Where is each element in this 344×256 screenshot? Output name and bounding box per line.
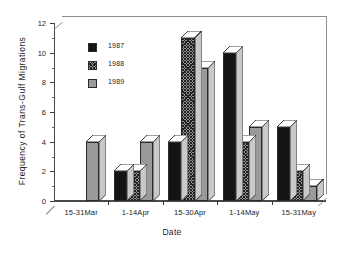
y-tick-major [50, 82, 54, 83]
bar-side [249, 135, 256, 194]
bar-face [277, 127, 290, 201]
y-tick-label: 12 [24, 19, 46, 28]
bar-side [236, 46, 243, 194]
bar-side [208, 61, 215, 195]
bar-side [153, 135, 160, 194]
x-tick-label: 15-31May [272, 208, 326, 217]
y-tick-minor [52, 157, 55, 158]
x-tick [108, 201, 109, 205]
bar-1987-15-30Apr [168, 142, 181, 201]
bar-top [114, 164, 127, 171]
y-tick-label: 8 [24, 78, 46, 87]
y-tick-label: 0 [24, 197, 46, 206]
bar-1989-15-31Mar [86, 142, 99, 201]
bar-top [277, 120, 290, 127]
bar-side [195, 31, 202, 194]
legend-swatch-1989 [88, 79, 97, 88]
x-tick [217, 201, 218, 205]
bar-top [86, 135, 99, 142]
y-tick-label: 4 [24, 138, 46, 147]
bar-1987-1-14Apr [114, 171, 127, 201]
x-tick-label: 1-14Apr [108, 208, 162, 217]
y-tick-major [50, 112, 54, 113]
y-tick-minor [52, 97, 55, 98]
y-tick-major [50, 142, 54, 143]
bar-top [168, 135, 181, 142]
x-tick [272, 201, 273, 205]
floor-front-edge [54, 201, 326, 202]
bar-face [86, 142, 99, 201]
y-tick-minor [52, 38, 55, 39]
x-tick [163, 201, 164, 205]
bar-side [290, 120, 297, 194]
frame-right-edge [326, 16, 327, 194]
y-tick-major [50, 201, 54, 202]
bar-top [140, 135, 153, 142]
y-tick-major [50, 23, 54, 24]
y-tick-minor [52, 127, 55, 128]
bar-top [223, 46, 236, 53]
y-tick-minor [52, 68, 55, 69]
x-tick-label: 1-14May [217, 208, 271, 217]
bar-face [223, 53, 236, 201]
bar-1987-1-14May [223, 53, 236, 201]
legend-label: 1987 [108, 42, 124, 49]
bar-1987-15-31May [277, 127, 290, 201]
y-tick-minor [52, 186, 55, 187]
bar-top [249, 120, 262, 127]
bar-side [99, 135, 106, 194]
plot-area: 02468101215-31Mar1-14Apr15-30Apr1-14May1… [0, 0, 344, 256]
y-tick-major [50, 53, 54, 54]
y-tick-label: 10 [24, 49, 46, 58]
bar-side [181, 135, 188, 194]
frame-corner-top-left [54, 16, 63, 24]
legend-label: 1989 [108, 78, 124, 85]
bar-side [262, 120, 269, 194]
bar-chart-figure: Frequency of Trans-Gulf Migrations Date … [0, 0, 344, 256]
bar-face [114, 171, 127, 201]
x-tick-label: 15-30Apr [163, 208, 217, 217]
frame-top-edge [62, 16, 327, 17]
y-tick-label: 6 [24, 108, 46, 117]
legend-swatch-1987 [88, 43, 97, 52]
bar-face [168, 142, 181, 201]
bar-top [181, 31, 194, 38]
x-tick-label: 15-31Mar [54, 208, 108, 217]
legend-swatch-1988 [88, 61, 97, 70]
y-tick-label: 2 [24, 167, 46, 176]
legend-label: 1988 [108, 60, 124, 67]
y-tick-major [50, 171, 54, 172]
